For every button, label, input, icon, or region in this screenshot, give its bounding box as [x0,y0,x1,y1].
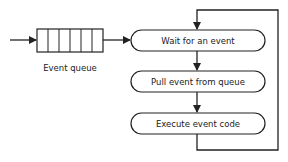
step-label: Pull event from queue [151,77,245,87]
step-label: Wait for an event [161,36,235,46]
event-loop-diagram: Event queue Wait for an event Pull event… [0,0,288,162]
step-wait-for-event: Wait for an event [131,30,265,51]
step-execute-event-code: Execute event code [131,113,265,134]
event-queue-label: Event queue [43,63,97,73]
step-label: Execute event code [156,119,240,129]
step-pull-event: Pull event from queue [131,71,265,92]
event-queue [37,29,103,52]
